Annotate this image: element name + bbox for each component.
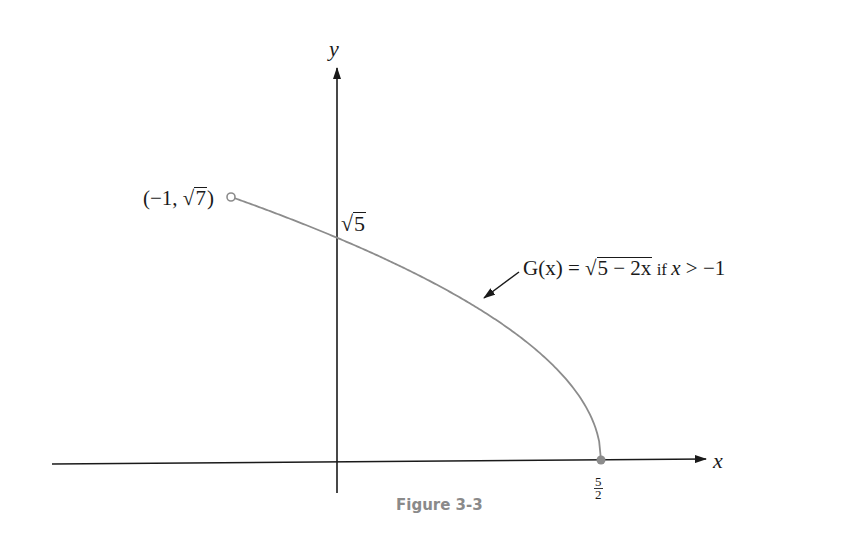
function-if: if [652,260,671,279]
sqrt-symbol: √7 [183,186,207,211]
open-point-prefix: (−1, [143,186,183,210]
fraction-denominator: 2 [595,489,602,501]
figure-caption: Figure 3-3 [396,496,483,514]
sqrt-symbol: √5 [341,211,366,237]
y-intercept-radicand: 5 [353,212,366,235]
function-label: G(x) = √5 − 2x if x > −1 [523,256,725,281]
open-point-label: (−1, √7) [143,186,214,211]
function-radicand: 5 − 2x [597,257,653,279]
x-intercept-label: 5 2 [594,472,603,501]
label-pointer-arrow [484,272,519,298]
sqrt-symbol: √5 − 2x [585,256,652,281]
x-axis-label: x [713,448,723,474]
function-lhs: G(x) = [523,256,585,280]
open-point-marker [227,193,235,201]
figure-canvas [0,0,857,552]
open-point-radicand: 7 [194,187,207,209]
function-condition-rest: > −1 [681,256,726,280]
y-intercept-label: √5 [341,211,366,237]
x-axis [52,459,706,464]
y-axis-label: y [329,36,339,62]
curve-g-path [231,197,601,460]
x-intercept-marker [597,456,606,465]
fraction-five-halves: 5 2 [594,476,603,501]
open-point-suffix: ) [207,186,214,210]
function-condition-var: x [671,256,680,280]
